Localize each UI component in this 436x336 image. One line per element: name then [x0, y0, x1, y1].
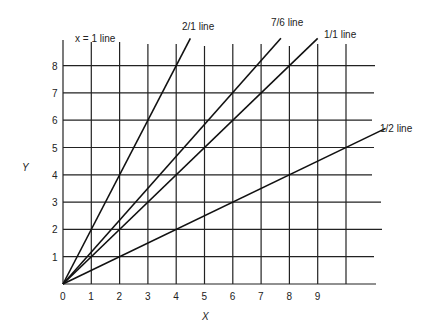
line-2-1-label: 2/1 line	[182, 21, 215, 32]
x-tick-label: 5	[202, 291, 208, 302]
x-axis-label: X	[201, 311, 209, 322]
x-tick-label: 3	[145, 291, 151, 302]
x-tick-label: 2	[117, 291, 123, 302]
x-tick-label: 9	[315, 291, 321, 302]
x-tick-label: 4	[173, 291, 179, 302]
x-tick-label: 0	[60, 291, 66, 302]
y-tick-label: 3	[52, 197, 58, 208]
x-tick-label: 8	[286, 291, 292, 302]
y-tick-label: 7	[52, 88, 58, 99]
tick-labels: 012345678912345678	[52, 61, 321, 302]
ratio-line	[63, 128, 386, 284]
y-axis-label: Y	[22, 162, 30, 173]
ratio-lines-diagram: 012345678912345678 x = 1 line 2/1 line 7…	[0, 0, 436, 336]
y-tick-label: 4	[52, 170, 58, 181]
y-tick-label: 8	[52, 61, 58, 72]
y-tick-label: 6	[52, 115, 58, 126]
line-1-1-label: 1/1 line	[324, 29, 357, 40]
y-tick-label: 5	[52, 143, 58, 154]
x-tick-label: 7	[258, 291, 264, 302]
grid	[63, 40, 382, 284]
ratio-lines	[63, 38, 386, 284]
line-7-6-label: 7/6 line	[271, 17, 304, 28]
ratio-line	[63, 38, 318, 284]
y-tick-label: 1	[52, 252, 58, 263]
x-equals-1-label: x = 1 line	[75, 33, 116, 44]
x-tick-label: 6	[230, 291, 236, 302]
x-tick-label: 1	[88, 291, 94, 302]
line-1-2-label: 1/2 line	[380, 123, 413, 134]
y-tick-label: 2	[52, 224, 58, 235]
